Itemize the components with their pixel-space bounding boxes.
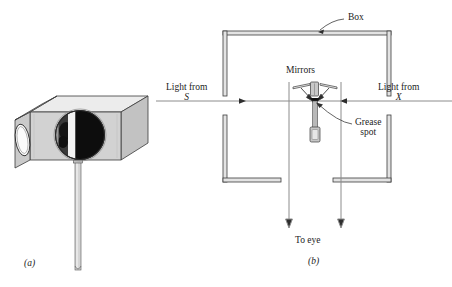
arrow-down-right — [338, 219, 345, 228]
box-walls — [223, 31, 391, 182]
label-light-from-x: Light from X — [378, 83, 419, 103]
label-to-eye: To eye — [295, 236, 320, 246]
label-box: Box — [348, 13, 364, 23]
figure-container: (a) — [0, 0, 452, 287]
panel-b-tag: (b) — [308, 256, 319, 266]
grease-leader-line — [316, 103, 352, 125]
label-mirrors: Mirrors — [286, 66, 315, 76]
label-light-from-s: Light from S — [166, 83, 207, 103]
panel-b-ray-diagram — [0, 0, 452, 287]
label-grease-spot: Grease spot — [355, 118, 381, 138]
arrow-down-left — [286, 219, 293, 228]
arrow-right-incoming — [239, 98, 246, 104]
mirrors-assembly — [293, 82, 337, 96]
grease-spot-stem — [313, 101, 318, 129]
